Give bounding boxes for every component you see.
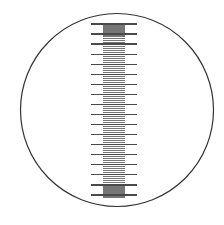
reticle-figure bbox=[0, 0, 224, 225]
reticle-canvas bbox=[0, 0, 224, 225]
